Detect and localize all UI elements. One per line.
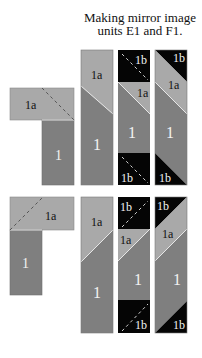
label-1b: 1b bbox=[121, 171, 133, 185]
f1-step1-l-shape: 1a 1 bbox=[10, 197, 74, 295]
label-1a: 1a bbox=[137, 86, 149, 100]
quilt-diagram: 1a 1 1a 1 1b 1a 1 1b 1b 1a 1 1b bbox=[0, 0, 202, 358]
label-1: 1 bbox=[55, 148, 62, 163]
label-1a: 1a bbox=[91, 68, 103, 82]
label-1: 1 bbox=[93, 136, 101, 153]
e1-step4-finished: 1b 1a 1 1b bbox=[155, 50, 187, 185]
label-1: 1 bbox=[128, 124, 136, 141]
label-1b: 1b bbox=[135, 318, 147, 332]
label-1: 1 bbox=[93, 284, 101, 301]
e1-step2-strip: 1a 1 bbox=[81, 50, 113, 185]
label-1: 1 bbox=[22, 256, 29, 271]
label-1a: 1a bbox=[45, 209, 57, 223]
f1-step2-strip: 1a 1 bbox=[81, 197, 113, 333]
e1-step1-l-shape: 1a 1 bbox=[10, 88, 74, 185]
label-1b: 1b bbox=[157, 199, 169, 213]
label-1: 1 bbox=[173, 271, 181, 288]
label-1b: 1b bbox=[159, 171, 171, 185]
label-1a: 1a bbox=[25, 98, 37, 112]
label-1: 1 bbox=[166, 124, 174, 141]
label-1b: 1b bbox=[120, 200, 132, 214]
label-1: 1 bbox=[134, 271, 142, 288]
f1-step3-strip: 1b 1a 1 1b bbox=[118, 197, 150, 333]
label-1b: 1b bbox=[135, 53, 147, 67]
label-1a: 1a bbox=[120, 233, 132, 247]
label-1a: 1a bbox=[91, 215, 103, 229]
e1-step3-strip: 1b 1a 1 1b bbox=[118, 50, 150, 185]
label-1a: 1a bbox=[168, 78, 180, 92]
label-1a: 1a bbox=[162, 227, 174, 241]
f1-step4-finished: 1b 1a 1 1b bbox=[155, 197, 187, 333]
label-1b: 1b bbox=[173, 318, 185, 332]
label-1b: 1b bbox=[173, 51, 185, 65]
